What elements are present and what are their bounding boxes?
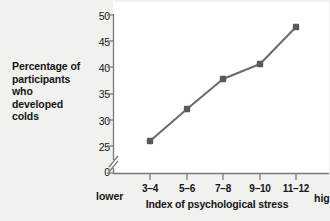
data-point-marker — [147, 138, 153, 144]
data-point-marker — [257, 61, 263, 67]
data-point-marker — [293, 24, 299, 30]
data-point-markers — [147, 24, 299, 144]
x-tick-marks — [150, 174, 296, 180]
x-tick-label-5: 11–12 — [275, 183, 317, 194]
x-axis-title: Index of psychological stress — [113, 198, 321, 210]
data-point-marker — [220, 76, 226, 82]
data-series-line — [150, 27, 296, 141]
x-tick-label-1: 3–4 — [131, 183, 169, 194]
x-tick-label-2: 5–6 — [168, 183, 206, 194]
data-point-marker — [184, 106, 190, 112]
x-tick-label-3: 7–8 — [204, 183, 242, 194]
y-tick-marks — [107, 15, 113, 173]
